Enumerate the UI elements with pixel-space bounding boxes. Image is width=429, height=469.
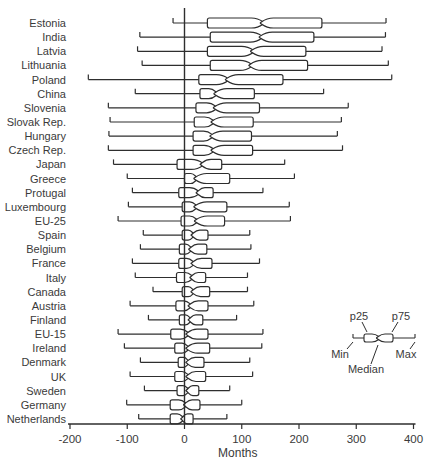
boxplot-chart: EstoniaIndiaLatviaLithuaniaPolandChinaSl… <box>0 0 429 469</box>
box-row <box>139 414 227 424</box>
box-row <box>142 60 388 70</box>
box-right-half <box>190 273 206 283</box>
box-right-half <box>211 145 253 155</box>
category-label: Canada <box>27 286 66 298</box>
box-row <box>140 244 250 254</box>
box-row <box>88 75 391 85</box>
category-label: UK <box>51 371 67 383</box>
box-right-half <box>186 357 204 367</box>
category-label: France <box>32 257 66 269</box>
category-label: Denmark <box>21 356 66 368</box>
legend-p25-label: p25 <box>350 310 368 322</box>
category-label: Hungary <box>24 130 66 142</box>
box-right-half <box>189 244 207 254</box>
box-left-half <box>210 32 263 42</box>
box-row <box>108 103 348 113</box>
box-row <box>148 315 236 325</box>
category-label: Czech Rep. <box>9 144 66 156</box>
category-label: Luxembourg <box>5 201 66 213</box>
box-right-half <box>211 117 253 127</box>
x-tick-label: -100 <box>116 433 139 445</box>
box-row <box>130 372 253 382</box>
box-right-half <box>188 315 203 325</box>
box-right-half <box>196 188 213 198</box>
x-tick-label: -200 <box>58 433 81 445</box>
box-row <box>130 301 254 311</box>
legend-median-pointer <box>371 345 378 364</box>
box-row <box>108 145 342 155</box>
box-right-half <box>249 60 308 70</box>
category-label: EU-25 <box>35 215 66 227</box>
box-right-half <box>200 159 221 169</box>
category-label: Ireland <box>32 342 66 354</box>
category-label: Belgium <box>26 243 66 255</box>
x-axis-title: Months <box>218 446 257 460</box>
box-row <box>144 386 229 396</box>
category-label: Japan <box>36 158 66 170</box>
box-right-half <box>186 386 199 396</box>
box-right-half <box>186 343 210 353</box>
category-label: Poland <box>32 74 66 86</box>
box-right-half <box>186 329 208 339</box>
category-label: Estonia <box>29 17 67 29</box>
legend-min-label: Min <box>331 348 349 360</box>
box-row <box>127 174 294 184</box>
chart-canvas: EstoniaIndiaLatviaLithuaniaPolandChinaSl… <box>0 0 429 469</box>
x-tick-label: 200 <box>289 433 308 445</box>
category-label: Germany <box>21 399 67 411</box>
box-right-half <box>191 230 208 240</box>
box-row <box>109 131 337 141</box>
category-label: Slovak Rep. <box>7 116 66 128</box>
box-right-half <box>260 18 322 28</box>
box-left-half <box>210 60 253 70</box>
category-label: Austria <box>32 300 67 312</box>
box-row <box>118 329 263 339</box>
category-label: Netherlands <box>7 413 67 425</box>
legend-max-label: Max <box>396 348 417 360</box>
box-row <box>135 89 323 99</box>
category-label: Sweden <box>26 385 66 397</box>
box-row <box>124 343 261 353</box>
box-right-half <box>194 202 227 212</box>
legend-p75-label: p75 <box>392 310 410 322</box>
category-label: Spain <box>38 229 66 241</box>
box-row <box>173 18 386 28</box>
box-row <box>140 32 386 42</box>
box-row <box>128 202 289 212</box>
legend-median-label: Median <box>348 363 384 375</box>
legend-box-right-half <box>377 334 394 342</box>
box-right-half <box>214 89 254 99</box>
x-tick-label: 400 <box>404 433 423 445</box>
category-label: China <box>37 88 67 100</box>
x-tick-label: 100 <box>232 433 251 445</box>
box-right-half <box>259 32 314 42</box>
legend-p75-pointer <box>392 322 398 332</box>
box-right-half <box>210 131 252 141</box>
x-tick-label: 300 <box>347 433 366 445</box>
legend: p25p75MinMaxMedian <box>331 310 417 375</box>
box-right-half <box>181 414 193 424</box>
box-left-half <box>207 18 264 28</box>
box-right-half <box>186 372 206 382</box>
box-left-half <box>207 46 254 56</box>
box-row <box>132 188 263 198</box>
box-row <box>118 216 290 226</box>
box-right-half <box>191 258 212 268</box>
category-label: Latvia <box>37 45 67 57</box>
box-row <box>135 273 247 283</box>
box-right-half <box>225 75 283 85</box>
legend-p25-pointer <box>362 322 367 332</box>
box-row <box>132 258 259 268</box>
category-label: Protugal <box>25 187 66 199</box>
box-right-half <box>191 287 210 297</box>
box-right-half <box>194 174 230 184</box>
category-label: Italy <box>46 272 67 284</box>
box-row <box>138 46 382 56</box>
box-right-half <box>195 216 225 226</box>
box-row <box>153 287 247 297</box>
box-row <box>140 357 249 367</box>
box-right-half <box>251 46 306 56</box>
category-label: Greece <box>30 173 66 185</box>
box-right-half <box>184 400 200 410</box>
category-label: Slovenia <box>24 102 67 114</box>
